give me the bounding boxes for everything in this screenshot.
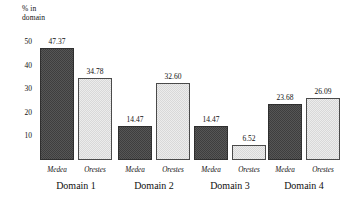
bar-value-label: 14.47: [188, 116, 234, 124]
y-axis-title-line: domain: [22, 14, 45, 23]
bar-chart: % indomain 1020304050 47.37Medea34.78Ore…: [0, 0, 348, 202]
y-axis-tick: 20: [16, 109, 32, 117]
y-axis-tick: 40: [16, 62, 32, 70]
bar-value-label: 6.52: [226, 135, 272, 143]
bar-value-label: 32.60: [150, 73, 196, 81]
y-axis-title: % indomain: [22, 5, 45, 22]
y-axis-tick: 30: [16, 85, 32, 93]
bar: [232, 145, 266, 160]
bar: [156, 83, 190, 160]
bar-value-label: 47.37: [34, 38, 80, 46]
bar-value-label: 26.09: [300, 88, 346, 96]
x-axis-group-label: Domain 4: [258, 180, 348, 192]
y-axis-tick: 10: [16, 132, 32, 140]
bar: [78, 78, 112, 160]
bar: [40, 48, 74, 160]
bar: [268, 104, 302, 160]
series-label-orestes: Orestes: [299, 166, 347, 175]
bar-value-label: 14.47: [112, 116, 158, 124]
y-axis-tick: 50: [16, 38, 32, 46]
bar: [118, 126, 152, 160]
bar-value-label: 34.78: [72, 68, 118, 76]
bar: [194, 126, 228, 160]
bar: [306, 98, 340, 160]
